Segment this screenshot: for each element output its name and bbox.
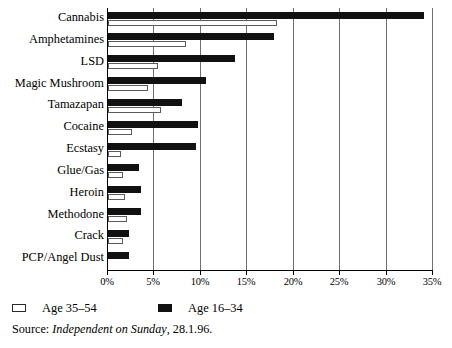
bar-light <box>108 20 277 26</box>
bar-dark <box>108 252 129 259</box>
bar-light <box>108 85 148 91</box>
x-tick-30pct <box>386 271 387 275</box>
category-label-lsd: LSD <box>0 55 104 68</box>
plot-area <box>107 8 432 270</box>
legend: Age 35–54 Age 16–34 <box>12 300 442 316</box>
gridline-35pct <box>432 8 433 270</box>
x-tick-20pct <box>293 271 294 275</box>
gridline-30pct <box>386 8 387 270</box>
bar-dark <box>108 230 129 237</box>
bar-dark <box>108 208 141 215</box>
x-tick-35pct <box>432 271 433 275</box>
legend-label-age-35-54: Age 35–54 <box>42 301 97 316</box>
category-label-tamazapan: Tamazapan <box>0 98 104 111</box>
bar-light <box>108 194 125 200</box>
x-tick-15pct <box>246 271 247 275</box>
x-tick-5pct <box>153 271 154 275</box>
source-suffix: , 28.1.96. <box>167 322 213 336</box>
category-label-heroin: Heroin <box>0 186 104 199</box>
x-tick-label-30pct: 30% <box>366 276 406 287</box>
bar-dark <box>108 121 198 128</box>
category-label-amphetamines: Amphetamines <box>0 33 104 46</box>
x-tick-label-5pct: 5% <box>133 276 173 287</box>
x-axis-line <box>107 270 433 271</box>
legend-item-age-16-34: Age 16–34 <box>158 300 243 316</box>
source-note: Source: Independent on Sunday, 28.1.96. <box>12 322 212 337</box>
bar-dark <box>108 33 274 40</box>
bar-dark <box>108 55 235 62</box>
bar-dark <box>108 12 424 19</box>
gridline-20pct <box>293 8 294 270</box>
gridline-10pct <box>200 8 201 270</box>
category-label-crack: Crack <box>0 229 104 242</box>
gridline-15pct <box>246 8 247 270</box>
category-label-magic-mushroom: Magic Mushroom <box>0 77 104 90</box>
bar-dark <box>108 143 196 150</box>
legend-swatch-dark-icon <box>158 304 172 312</box>
gridline-25pct <box>339 8 340 270</box>
bar-light <box>108 63 158 69</box>
x-tick-0pct <box>107 271 108 275</box>
bar-chart: 0%5%10%15%20%25%30%35% CannabisAmphetami… <box>0 0 452 348</box>
category-label-pcp-angel-dust: PCP/Angel Dust <box>0 251 104 264</box>
bar-light <box>108 151 121 157</box>
bar-light <box>108 238 123 244</box>
legend-swatch-light-icon <box>12 304 26 312</box>
bar-light <box>108 107 161 113</box>
x-tick-label-15pct: 15% <box>226 276 266 287</box>
category-label-cannabis: Cannabis <box>0 11 104 24</box>
category-label-ecstasy: Ecstasy <box>0 142 104 155</box>
bar-dark <box>108 164 139 171</box>
x-tick-label-10pct: 10% <box>180 276 220 287</box>
source-prefix: Source: <box>12 322 52 336</box>
legend-label-age-16-34: Age 16–34 <box>188 301 243 316</box>
x-tick-label-35pct: 35% <box>412 276 452 287</box>
x-tick-label-20pct: 20% <box>273 276 313 287</box>
bar-dark <box>108 77 206 84</box>
bar-light <box>108 129 132 135</box>
category-label-glue-gas: Glue/Gas <box>0 164 104 177</box>
x-tick-10pct <box>200 271 201 275</box>
x-tick-label-25pct: 25% <box>319 276 359 287</box>
bar-dark <box>108 99 182 106</box>
bar-light <box>108 216 127 222</box>
x-tick-label-0pct: 0% <box>87 276 127 287</box>
category-label-methodone: Methodone <box>0 208 104 221</box>
bar-dark <box>108 186 141 193</box>
y-axis-line <box>107 8 108 271</box>
category-label-cocaine: Cocaine <box>0 120 104 133</box>
bar-light <box>108 172 123 178</box>
legend-item-age-35-54: Age 35–54 <box>12 300 97 316</box>
source-publication: Independent on Sunday <box>52 322 166 336</box>
bar-light <box>108 41 186 47</box>
x-tick-25pct <box>339 271 340 275</box>
